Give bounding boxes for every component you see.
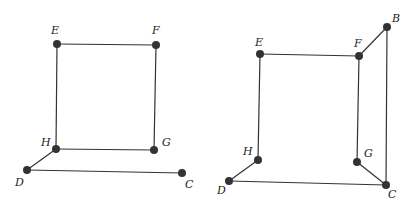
edge-EH — [56, 44, 57, 149]
vertex-D — [225, 177, 233, 185]
vertex-label-D: D — [216, 184, 226, 197]
vertex-C — [178, 169, 186, 177]
edge-HG — [56, 149, 154, 150]
vertex-F — [355, 52, 363, 60]
graph-diagrams: EFHGDCBEFHGDC — [0, 0, 410, 205]
vertex-label-C: C — [388, 188, 397, 201]
edge-FB — [359, 27, 387, 56]
vertex-G — [353, 158, 361, 166]
vertex-D — [23, 166, 31, 174]
vertex-label-F: F — [353, 37, 362, 50]
vertex-label-C: C — [185, 178, 194, 191]
edge-EH — [258, 54, 260, 160]
vertex-label-B: B — [391, 12, 400, 25]
vertex-label-H: H — [242, 145, 253, 158]
vertex-E — [53, 40, 61, 48]
vertex-label-G: G — [364, 147, 373, 160]
vertex-label-E: E — [50, 24, 59, 37]
edge-EF — [260, 54, 359, 56]
vertex-label-E: E — [254, 36, 263, 49]
edge-HD — [229, 160, 258, 181]
edge-FG — [154, 45, 156, 150]
vertex-E — [256, 50, 264, 58]
left-figure: EFHGDC — [14, 24, 194, 191]
right-figure: BEFHGDC — [216, 12, 400, 201]
vertex-label-F: F — [151, 24, 160, 37]
vertex-label-H: H — [40, 136, 51, 149]
edge-GC — [357, 162, 386, 185]
vertex-H — [254, 156, 262, 164]
edge-HD — [27, 149, 56, 170]
edge-BC — [386, 27, 387, 185]
vertex-H — [52, 145, 60, 153]
vertex-B — [383, 23, 391, 31]
edge-EF — [57, 44, 156, 45]
vertex-label-G: G — [162, 136, 171, 149]
vertex-label-D: D — [14, 176, 24, 189]
vertex-F — [152, 41, 160, 49]
edge-DC — [229, 181, 386, 185]
vertex-G — [150, 146, 158, 154]
edge-DC — [27, 170, 182, 173]
edge-FG — [357, 56, 359, 162]
